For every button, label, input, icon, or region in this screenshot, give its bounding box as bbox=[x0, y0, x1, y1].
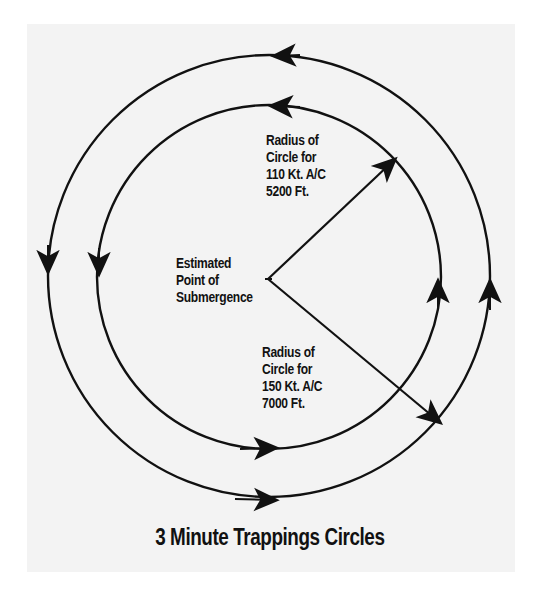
outer-radius-label-line: 150 Kt. A/C bbox=[262, 378, 322, 395]
submergence-label-line: Point of bbox=[176, 272, 253, 289]
outer-radius-label-line: Circle for bbox=[262, 361, 322, 378]
trapping-circles-diagram bbox=[0, 0, 540, 589]
submergence-label-line: Submergence bbox=[176, 289, 253, 306]
inner-radius-label-line: 5200 Ft. bbox=[266, 183, 326, 200]
submergence-label-line: Estimated bbox=[176, 255, 253, 272]
outer-circle bbox=[48, 55, 490, 497]
diagram-title: 3 Minute Trappings Circles bbox=[0, 524, 540, 551]
inner-radius-label-line: 110 Kt. A/C bbox=[266, 166, 326, 183]
outer-radius-label-line: Radius of bbox=[262, 344, 322, 361]
diagram-title-text: 3 Minute Trappings Circles bbox=[155, 524, 384, 551]
outer-radius-label-line: 7000 Ft. bbox=[262, 395, 322, 412]
inner-radius-label-line: Radius of bbox=[266, 132, 326, 149]
inner-radius-label: Radius of Circle for 110 Kt. A/C 5200 Ft… bbox=[266, 132, 326, 200]
outer-radius-label: Radius of Circle for 150 Kt. A/C 7000 Ft… bbox=[262, 344, 322, 412]
inner-radius-label-line: Circle for bbox=[266, 149, 326, 166]
submergence-point-label: Estimated Point of Submergence bbox=[176, 255, 253, 306]
